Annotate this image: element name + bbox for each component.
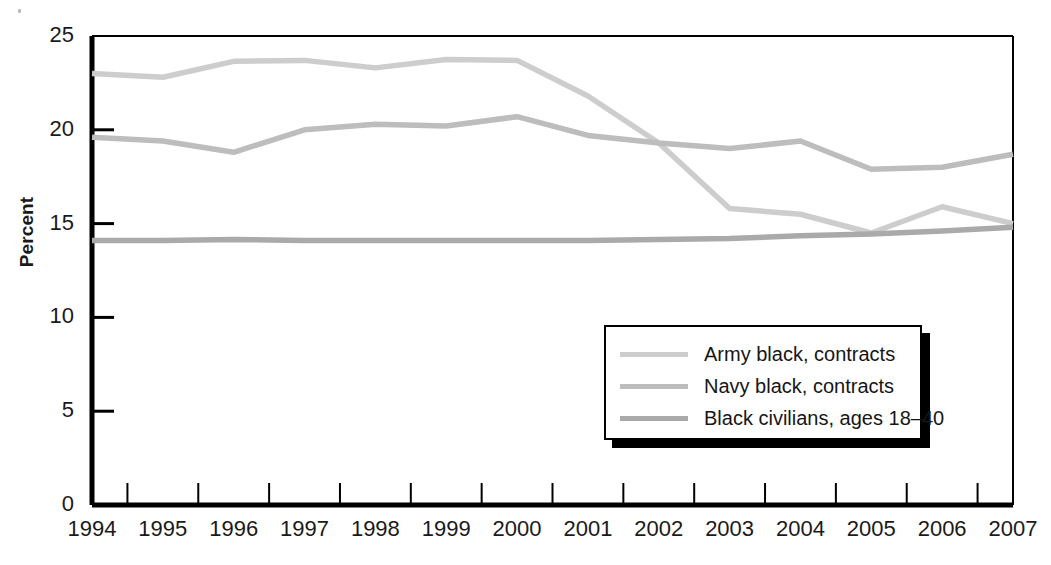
legend-item: Black civilians, ages 18–40 <box>606 401 920 435</box>
chart-legend: Army black, contractsNavy black, contrac… <box>604 325 922 440</box>
legend-item: Navy black, contracts <box>606 369 920 403</box>
legend-label: Black civilians, ages 18–40 <box>704 408 944 428</box>
plot-area <box>0 0 1051 565</box>
legend-label: Army black, contracts <box>704 344 895 364</box>
series-line <box>92 117 1013 170</box>
series-line <box>92 59 1013 233</box>
legend-item: Army black, contracts <box>606 337 920 371</box>
chart-figure: Percent 0510152025 199419951996199719981… <box>0 0 1051 565</box>
legend-swatch <box>620 384 688 389</box>
legend-label: Navy black, contracts <box>704 376 894 396</box>
legend-swatch <box>620 416 688 421</box>
legend-swatch <box>620 352 688 357</box>
